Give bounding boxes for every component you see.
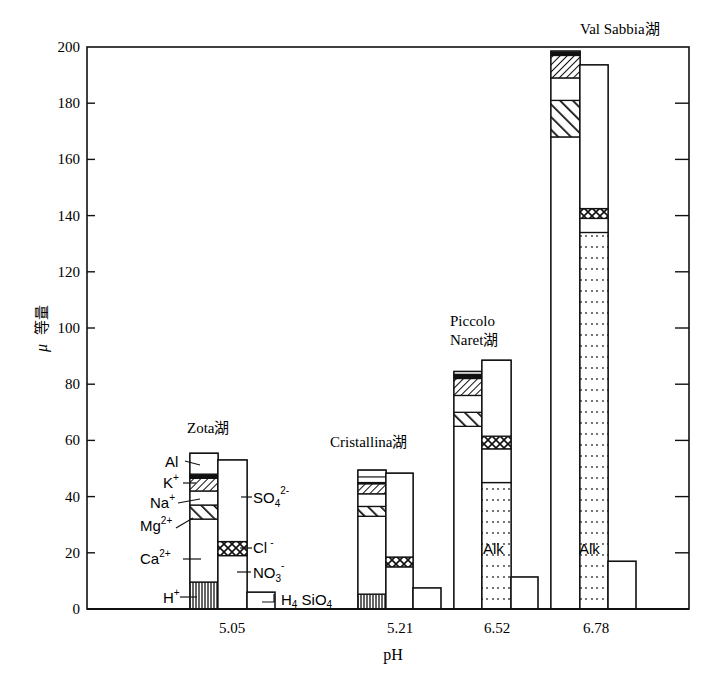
segment (190, 505, 218, 519)
ion-label-k: K+ (163, 472, 179, 491)
segment (454, 395, 482, 412)
segment (190, 582, 218, 609)
segment (551, 100, 580, 137)
svg-text:Mg2+: Mg2+ (140, 515, 172, 534)
ion-balance-chart: 020406080100120140160180200 μ 等量 5.05 5.… (0, 0, 717, 679)
svg-text:Cl-: Cl- (253, 537, 274, 556)
segment (218, 556, 247, 609)
segment (551, 51, 580, 52)
y-axis-label: μ 等量 (33, 305, 51, 353)
y-tick-label: 0 (73, 601, 81, 617)
svg-text:Ca2+: Ca2+ (140, 548, 171, 567)
lake-title-cristallina: Cristallina湖 (330, 434, 408, 450)
y-tick-label: 140 (58, 208, 81, 224)
ion-label-al: Al (165, 453, 178, 470)
y-tick-label: 160 (58, 151, 81, 167)
svg-text:NO3-: NO3- (253, 560, 284, 584)
y-tick-label: 20 (65, 545, 80, 561)
silicate-bar (413, 588, 441, 609)
ion-label-so4: SO42- (253, 485, 289, 509)
segment (386, 473, 413, 557)
y-tick-label: 100 (58, 320, 81, 336)
y-tick-label: 200 (58, 39, 81, 55)
silicate-bar (608, 561, 636, 609)
segment (358, 516, 386, 594)
ion-label-mg: Mg2+ (140, 515, 172, 534)
y-tick-label: 80 (65, 376, 80, 392)
svg-text:SO42-: SO42- (253, 485, 289, 509)
segment (454, 412, 482, 426)
segment (482, 360, 511, 436)
segment (580, 65, 608, 209)
y-tick-label: 120 (58, 264, 81, 280)
segment (386, 567, 413, 609)
x-tick-505: 5.05 (219, 620, 245, 636)
lake-title-piccolo-1: Piccolo (450, 313, 495, 329)
svg-text:K+: K+ (163, 472, 179, 491)
segment (482, 449, 511, 483)
y-tick-label: 180 (58, 95, 81, 111)
segment (482, 436, 511, 449)
x-tick-652: 6.52 (484, 620, 510, 636)
y-tick-label: 40 (65, 489, 80, 505)
silicate-bar (247, 592, 275, 609)
segment (454, 372, 482, 375)
segment (551, 137, 580, 609)
segment (190, 491, 218, 505)
alk-label-piccolo: Alk (483, 540, 504, 557)
bar-group (454, 360, 538, 609)
segment (454, 426, 482, 609)
ion-label-h4sio4: H4 SiO4 (281, 591, 333, 610)
alk-label-valsabbia: Alk (579, 540, 600, 557)
y-label-unit: 等量 (33, 305, 50, 335)
segment (386, 557, 413, 567)
segment (218, 460, 247, 541)
segment (580, 209, 608, 219)
y-label-mu: μ (33, 344, 51, 353)
x-tick-521: 5.21 (387, 620, 413, 636)
segment (358, 494, 386, 507)
bar-group (551, 51, 636, 609)
svg-text:Na+: Na+ (150, 492, 175, 511)
ion-label-h: H+ (163, 587, 180, 606)
y-tick-label: 60 (65, 432, 80, 448)
segment (190, 519, 218, 582)
segment (551, 55, 580, 77)
segment (551, 78, 580, 100)
svg-text:H+: H+ (163, 587, 180, 606)
segment (580, 218, 608, 232)
segment (358, 506, 386, 516)
ion-label-ca: Ca2+ (140, 548, 171, 567)
ion-label-no3: NO3- (253, 560, 284, 584)
silicate-bar (511, 577, 538, 609)
x-tick-678: 6.78 (583, 620, 609, 636)
x-axis-label: pH (383, 646, 403, 664)
bars-layer (87, 51, 689, 609)
svg-text:H4 SiO4: H4 SiO4 (281, 591, 333, 610)
bar-group (358, 470, 441, 609)
lake-title-zota: Zota湖 (187, 420, 230, 436)
bar-group (190, 453, 275, 609)
lake-title-piccolo-2: Naret湖 (450, 332, 498, 348)
segment (358, 594, 386, 609)
ion-label-cl: Cl- (253, 537, 274, 556)
ion-label-na: Na+ (150, 492, 175, 511)
lake-title-valsabbia: Val Sabbia湖 (580, 21, 660, 37)
